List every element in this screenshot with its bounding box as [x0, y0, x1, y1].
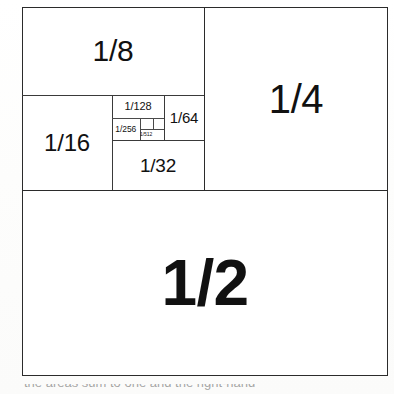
region-sixtyfourth: 1/64: [164, 95, 204, 140]
caption-sliver-text: the areas sum to one and the right-hand: [24, 384, 255, 390]
figure-canvas: 1/2 1/4 1/8 1/16 1/32 1/64 1/128 1/256 1…: [0, 0, 394, 394]
region-thirtysecond-label: 1/32: [140, 156, 176, 175]
region-thirtysecond: 1/32: [112, 140, 204, 190]
region-eighth-label: 1/8: [93, 36, 134, 66]
region-twofiftysixth: 1/256: [112, 118, 140, 140]
region-sixteenth: 1/16: [22, 95, 112, 190]
region-fivetwelfth: 1/512: [140, 129, 153, 140]
region-twofiftysixth-label: 1/256: [115, 125, 136, 134]
region-onetwentyeighth: 1/128: [112, 95, 164, 118]
region-half-label: 1/2: [161, 251, 248, 315]
region-quarter: 1/4: [204, 7, 388, 190]
region-half: 1/2: [22, 190, 388, 376]
region-sixtyfourth-label: 1/64: [170, 110, 199, 125]
region-eighth: 1/8: [22, 7, 204, 95]
region-fivetwelfth-label: 1/512: [140, 132, 152, 137]
region-sixteenth-label: 1/16: [44, 131, 90, 155]
region-quarter-label: 1/4: [269, 79, 323, 119]
region-onetwentyeighth-label: 1/128: [125, 101, 152, 112]
region-unlabeled-smallest: [140, 118, 153, 129]
caption-sliver: the areas sum to one and the right-hand: [0, 384, 394, 394]
divider-smallest-right: [153, 118, 154, 129]
